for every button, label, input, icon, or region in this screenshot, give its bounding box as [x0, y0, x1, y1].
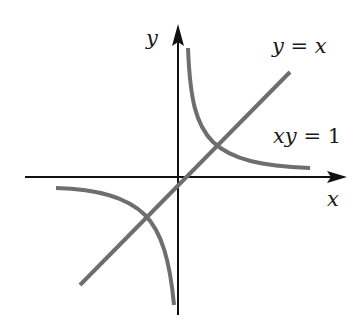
y-axis: [172, 24, 184, 315]
line-equation-label: y = x: [271, 34, 327, 58]
curve-eq-var: xy: [273, 124, 298, 148]
hyperbola-branch-upper: [188, 48, 310, 168]
curve-eq-val: 1: [328, 124, 341, 148]
hyperbola-figure: y x y = x xy = 1: [0, 0, 361, 335]
curve-eq-eq: =: [297, 124, 328, 148]
curve-equation-label: xy = 1: [273, 124, 341, 148]
line-y-equals-x: [80, 72, 290, 285]
y-axis-label: y: [145, 26, 159, 50]
x-axis-label: x: [327, 187, 339, 211]
